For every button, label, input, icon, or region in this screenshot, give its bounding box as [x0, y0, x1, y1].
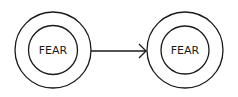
node-right: FEAR — [147, 12, 223, 88]
node-left-label: FEAR — [39, 44, 68, 57]
node-right-label: FEAR — [171, 44, 200, 57]
diagram-canvas: FEAR FEAR — [0, 0, 238, 97]
edge-arrow — [91, 44, 146, 58]
node-left: FEAR — [15, 12, 91, 88]
